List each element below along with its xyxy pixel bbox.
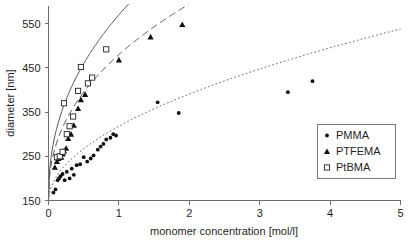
y-tick-label: 250	[22, 150, 40, 162]
y-tick-label: 350	[22, 106, 40, 118]
legend-label: PtBMA	[336, 161, 371, 173]
x-tick-label: 5	[397, 207, 403, 219]
marker-square	[60, 149, 65, 154]
marker-dot	[54, 188, 58, 192]
marker-dot	[85, 160, 89, 164]
marker-dot	[52, 191, 56, 195]
marker-square	[67, 124, 72, 129]
marker-dot	[311, 79, 315, 83]
marker-triangle	[116, 57, 122, 63]
marker-square	[78, 64, 83, 69]
marker-dot	[65, 170, 69, 174]
marker-dot	[78, 162, 82, 166]
series-ptfema	[52, 21, 186, 169]
y-tick-label: 450	[22, 62, 40, 74]
marker-square	[324, 165, 329, 170]
x-tick-label: 4	[327, 207, 333, 219]
marker-square	[85, 81, 90, 86]
marker-square	[75, 88, 80, 93]
marker-dot	[89, 157, 93, 161]
scatter-plot: 012345 150250350450550 monomer concentra…	[0, 0, 409, 243]
marker-square	[71, 114, 76, 119]
marker-triangle	[179, 21, 185, 27]
x-axis-title: monomer concentration [mol/l]	[150, 225, 298, 237]
legend[interactable]: PMMAPTFEMAPtBMA	[318, 125, 396, 179]
marker-square	[61, 101, 66, 106]
marker-triangle	[52, 164, 58, 170]
y-tick-label: 550	[22, 18, 40, 30]
data-point-group	[52, 21, 315, 194]
chart-container: 012345 150250350450550 monomer concentra…	[0, 0, 409, 243]
marker-dot	[114, 134, 118, 138]
x-tick-label: 0	[45, 207, 51, 219]
marker-square	[104, 47, 109, 52]
marker-dot	[75, 163, 79, 167]
marker-triangle	[78, 97, 84, 103]
marker-dot	[82, 155, 86, 159]
x-tick-label: 3	[257, 207, 263, 219]
marker-dot	[325, 134, 329, 138]
marker-square	[90, 75, 95, 80]
x-tick-label: 2	[186, 207, 192, 219]
marker-dot	[70, 167, 74, 171]
x-tick-label: 1	[116, 207, 122, 219]
marker-dot	[92, 154, 96, 158]
marker-triangle	[82, 91, 88, 97]
marker-dot	[156, 100, 160, 104]
y-axis-title: diameter [nm]	[4, 69, 16, 136]
marker-dot	[61, 172, 65, 176]
series-ptbma	[54, 47, 108, 160]
marker-dot	[63, 178, 67, 182]
marker-dot	[96, 148, 100, 152]
x-axis-ticks: 012345	[45, 201, 403, 219]
legend-label: PTFEMA	[336, 145, 381, 157]
marker-triangle	[75, 105, 81, 111]
marker-dot	[68, 176, 72, 180]
marker-dot	[177, 111, 181, 115]
marker-dot	[102, 142, 106, 146]
y-axis-ticks: 150250350450550	[22, 18, 48, 207]
marker-square	[64, 132, 69, 137]
marker-dot	[104, 138, 108, 142]
legend-label: PMMA	[336, 129, 370, 141]
y-tick-label: 150	[22, 195, 40, 207]
marker-dot	[72, 173, 76, 177]
marker-dot	[286, 90, 290, 94]
marker-triangle	[147, 34, 153, 40]
marker-dot	[109, 136, 113, 140]
marker-dot	[99, 145, 103, 149]
